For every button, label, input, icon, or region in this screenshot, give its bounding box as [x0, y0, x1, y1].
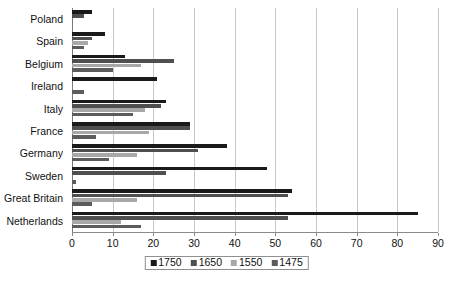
x-axis-tick-mark-50 [275, 233, 276, 236]
chart-legend: 1750165015501475 [144, 256, 308, 270]
x-axis-tick-label-0: 0 [69, 237, 75, 249]
bar-group [72, 75, 438, 97]
y-axis-label-spain: Spain [36, 30, 63, 52]
bar-ireland-1750 [72, 77, 157, 81]
plot-area [72, 8, 438, 232]
y-axis-label-poland: Poland [30, 8, 63, 30]
bar-netherlands-1475 [72, 225, 141, 229]
bar-group [72, 53, 438, 75]
x-axis-tick-mark-20 [153, 233, 154, 236]
bar-italy-1475 [72, 113, 133, 117]
y-axis-label-sweden: Sweden [25, 165, 63, 187]
x-axis-tick-label-10: 10 [107, 237, 119, 249]
legend-item-1750[interactable]: 1750 [150, 257, 181, 268]
x-axis-ticks: 0102030405060708090 [72, 233, 438, 251]
bar-ireland-1475 [72, 90, 84, 94]
x-axis-tick-mark-30 [194, 233, 195, 236]
legend-label-1750: 1750 [158, 257, 181, 268]
bar-italy-1550 [72, 108, 145, 112]
x-axis-tick-label-60: 60 [310, 237, 322, 249]
y-axis-label-ireland: Ireland [31, 75, 63, 97]
bar-group [72, 165, 438, 187]
x-axis-tick-mark-70 [357, 233, 358, 236]
x-axis-tick-mark-0 [72, 233, 73, 236]
bar-great-britain-1550 [72, 198, 137, 202]
bar-group [72, 210, 438, 232]
bar-belgium-1750 [72, 55, 125, 59]
bar-poland-1650 [72, 14, 84, 18]
legend-label-1475: 1475 [279, 257, 302, 268]
legend-item-1475[interactable]: 1475 [271, 257, 302, 268]
bar-belgium-1550 [72, 64, 141, 68]
legend-swatch-1750 [150, 260, 156, 266]
x-axis-tick-label-50: 50 [269, 237, 281, 249]
bar-great-britain-1475 [72, 202, 92, 206]
legend-label-1550: 1550 [239, 257, 262, 268]
y-axis-label-germany: Germany [20, 142, 63, 164]
bar-groups [72, 8, 438, 232]
legend-swatch-1475 [271, 260, 277, 266]
bar-belgium-1475 [72, 68, 113, 72]
gridline-90 [438, 8, 439, 232]
bar-spain-1475 [72, 46, 84, 50]
bar-netherlands-1650 [72, 216, 288, 220]
bar-great-britain-1650 [72, 194, 288, 198]
x-axis-tick-mark-80 [397, 233, 398, 236]
x-axis-tick-mark-60 [316, 233, 317, 236]
bar-france-1650 [72, 126, 190, 130]
x-axis-tick-label-80: 80 [391, 237, 403, 249]
bar-france-1750 [72, 122, 190, 126]
bar-netherlands-1550 [72, 220, 121, 224]
legend-label-1650: 1650 [199, 257, 222, 268]
x-axis-tick-label-90: 90 [432, 237, 444, 249]
bar-sweden-1650 [72, 171, 166, 175]
bar-poland-1750 [72, 10, 92, 14]
bar-germany-1750 [72, 144, 227, 148]
x-axis-tick-label-40: 40 [229, 237, 241, 249]
bar-spain-1650 [72, 37, 92, 41]
y-axis-label-great-britain: Great Britain [4, 187, 63, 209]
x-axis-tick-label-70: 70 [351, 237, 363, 249]
bar-group [72, 98, 438, 120]
bar-great-britain-1750 [72, 189, 292, 193]
bar-germany-1550 [72, 153, 137, 157]
bar-belgium-1650 [72, 59, 174, 63]
bar-spain-1750 [72, 32, 105, 36]
bar-germany-1475 [72, 158, 109, 162]
x-axis-tick-mark-10 [113, 233, 114, 236]
bar-spain-1550 [72, 41, 88, 45]
bar-italy-1750 [72, 100, 166, 104]
y-axis-label-belgium: Belgium [25, 53, 63, 75]
legend-item-1650[interactable]: 1650 [191, 257, 222, 268]
bar-netherlands-1750 [72, 212, 418, 216]
bar-france-1550 [72, 131, 149, 135]
y-axis-category-labels: PolandSpainBelgiumIrelandItalyFranceGerm… [0, 8, 68, 232]
y-axis-label-netherlands: Netherlands [6, 210, 63, 232]
bar-group [72, 8, 438, 30]
legend-swatch-1650 [191, 260, 197, 266]
y-axis-label-france: France [30, 120, 63, 142]
x-axis-tick-mark-40 [235, 233, 236, 236]
bar-chart: PolandSpainBelgiumIrelandItalyFranceGerm… [0, 0, 453, 281]
x-axis-tick-label-20: 20 [147, 237, 159, 249]
bar-group [72, 187, 438, 209]
bar-group [72, 142, 438, 164]
bar-sweden-1750 [72, 167, 267, 171]
bar-group [72, 120, 438, 142]
legend-item-1550[interactable]: 1550 [231, 257, 262, 268]
bar-france-1475 [72, 135, 96, 139]
x-axis-tick-mark-90 [438, 233, 439, 236]
y-axis-label-italy: Italy [44, 98, 63, 120]
x-axis-tick-label-30: 30 [188, 237, 200, 249]
bar-sweden-1475 [72, 180, 76, 184]
bar-group [72, 30, 438, 52]
bar-italy-1650 [72, 104, 161, 108]
legend-swatch-1550 [231, 260, 237, 266]
bar-germany-1650 [72, 149, 198, 153]
